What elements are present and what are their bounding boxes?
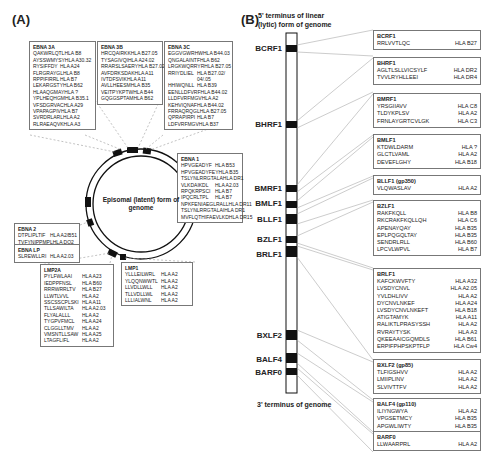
epitope-row: LPCVLWPVLHLA B7 xyxy=(377,246,477,253)
epitope-rows: ILIYNGWYAHLA A2VPGSETMCYHLA B35APGWLIWTY… xyxy=(377,408,477,430)
epitope-box-bllf1: BLLF1 (gp350) VLQWASLAVHLA A2 xyxy=(373,175,481,195)
hla-restriction: HLA A2.03 xyxy=(50,253,76,259)
epitope-sequence: APENAYQAY xyxy=(377,225,411,232)
panel-b-label: (B) xyxy=(241,12,259,27)
hla-restriction: HLA B18 xyxy=(455,307,477,314)
epitope-row: EPLPQGQLTAYHLA B35 xyxy=(377,232,477,239)
epitope-row: LVSDYCNVLHLA A2.05 xyxy=(377,285,477,292)
hla-restriction: HLA A2 xyxy=(458,293,477,300)
hla-restriction: HLA A2 xyxy=(458,384,477,391)
gene-label-bmlf1: BMLF1 xyxy=(242,199,282,208)
epitope-sequence: QKEEAAICGQMDLS xyxy=(377,336,430,343)
gene-label-bmrf1: BMRF1 xyxy=(242,184,282,193)
epitope-row: QKEEAAICGQMDLSHLA B61 xyxy=(377,336,477,343)
hla-restriction: HLA A11 xyxy=(456,314,477,321)
epitope-row: GLCTLVAMLHLA A2 xyxy=(377,151,477,158)
epitope-row: KTDWLDARMHLA ? xyxy=(377,144,477,151)
hla-restriction: HLA A2 xyxy=(458,441,477,448)
epitope-row: ERPIFPHPSKPTFLPHLA Cw4 xyxy=(377,343,477,350)
hla-restriction: HLA Cw4 xyxy=(454,343,477,350)
hla-restriction: HLA A3 xyxy=(458,329,477,336)
epitope-row: RLRAEAQVKHLA A3 xyxy=(33,121,92,127)
epitope-box-bmlf1: BMLF1 KTDWLDARMHLA ?GLCTLVAMLHLA A2DEVEF… xyxy=(373,134,481,169)
epitope-rows: RRLVVTLQCHLA B27 xyxy=(377,40,477,47)
hla-restriction: HLA ? xyxy=(462,144,477,151)
epitope-rows: YRSGIIAVVHLA C8TLDYKPLSVHLA A2FRNLAYGRTC… xyxy=(377,103,477,125)
epitope-sequence: DYCNVLNKEF xyxy=(377,300,415,307)
box-title: BMLF1 xyxy=(377,137,477,144)
hla-restriction: HLA B18 xyxy=(455,159,477,166)
hla-restriction: HLA B35 xyxy=(455,423,477,430)
hla-restriction: HLA B61 xyxy=(455,336,477,343)
epitope-rows: LLWAARPRLHLA A2 xyxy=(377,441,477,448)
epitope-rows: KAFCKWVFTYHLA A32LVSDYCNVLHLA A2.05YVLDH… xyxy=(377,278,477,350)
epitope-sequence: APGWLIWTY xyxy=(377,423,411,430)
epitope-sequence: YVLDHLIVV xyxy=(377,293,408,300)
epitope-sequence: RVRAYTYSK xyxy=(377,329,410,336)
epitope-rows: VLQWASLAVHLA A2 xyxy=(377,185,477,192)
box-title: BXLF2 (gp85) xyxy=(377,362,477,369)
gene-label-brlf1: BRLF1 xyxy=(242,250,282,259)
hla-restriction: HLA A2 xyxy=(161,297,189,303)
epitope-sequence: ATIGTAMYK xyxy=(377,314,409,321)
epitope-rows: EGGVGWRHWHLA B44.03QNGALAINTFHLA B62LRGK… xyxy=(168,50,229,127)
epitope-row: RRLVVTLQCHLA B27 xyxy=(377,40,477,47)
hla-restriction: HLA A2 xyxy=(458,185,477,192)
hla-restriction: HLA B60 xyxy=(455,239,477,246)
hla-restriction: HLA C3 xyxy=(458,118,477,125)
hla-restriction: HLA A3 xyxy=(64,121,92,127)
epitope-sequence: LVSDYCNVL xyxy=(377,285,410,292)
hla-restriction: HLA B27 xyxy=(455,40,477,47)
hla-restriction: HLA A2.05 xyxy=(451,285,477,292)
epitope-row: TLFIGSHVVHLA A2 xyxy=(377,369,477,376)
gene-label-barf0: BARF0 xyxy=(242,368,282,377)
epitope-row: SENDRLRLLHLA B60 xyxy=(377,239,477,246)
epitope-box-ebna1: EBNA 1 HPVGEADYFHLA B53HPVGEADYFEYHLA B3… xyxy=(177,153,243,223)
epitope-sequence: MVFLQTHIFAEVLKD xyxy=(181,214,229,220)
epitope-sequence: SENDRLRLL xyxy=(377,239,410,246)
epitope-row: VLQWASLAVHLA A2 xyxy=(377,185,477,192)
epitope-sequence: AGLTLSLLVICSYLF xyxy=(377,67,427,74)
epitope-box-brlf1: BRLF1 KAFCKWVFTYHLA A32LVSDYCNVLHLA A2.0… xyxy=(373,268,481,353)
hla-restriction: HLA B8 xyxy=(458,210,477,217)
epitope-box-bhrf1: BHRF1 AGLTLSLLVICSYLFHLA DR2TVVLRYHLLEEI… xyxy=(373,57,481,85)
epitope-row: LLLIALWNLHLA A2 xyxy=(125,297,189,303)
box-title: BARF0 xyxy=(377,434,477,441)
gene-label-balf4: BALF4 xyxy=(242,355,282,364)
bottom-caption: 3' terminus of genome xyxy=(257,400,331,409)
epitope-row: LTAGFLIFLHLA A2 xyxy=(44,337,110,343)
hla-restriction: HLA B7 xyxy=(458,246,477,253)
epitope-box-balf4: BALF4 (gp110) ILIYNGWYAHLA A2VPGSETMCYHL… xyxy=(373,398,481,433)
epitope-box-ebnalp: EBNA LP SLREWLLRIHLA A2.03 xyxy=(14,244,80,263)
epitope-row: RAKFKQLLHLA B8 xyxy=(377,210,477,217)
epitope-sequence: VLQWASLAV xyxy=(377,185,411,192)
epitope-row: ILIYNGWYAHLA A2 xyxy=(377,408,477,415)
epitope-box-bcrf1: BCRF1 RRLVVTLQCHLA B27 xyxy=(373,30,481,50)
box-title: BLLF1 (gp350) xyxy=(377,178,477,185)
epitope-box-ebna3c: EBNA 3C EGGVGWRHWHLA B44.03QNGALAINTFHLA… xyxy=(164,41,233,130)
epitope-sequence: KAFCKWVFTY xyxy=(377,278,415,285)
box-title: BCRF1 xyxy=(377,33,477,40)
hla-restriction: HLA A24 xyxy=(455,300,477,307)
epitope-sequence: LPCVLWPVL xyxy=(377,246,410,253)
top-caption-line1: 5' terminus of linear xyxy=(258,11,324,20)
epitope-row: KAFCKWVFTYHLA A32 xyxy=(377,278,477,285)
box-title: BALF4 (gp110) xyxy=(377,401,477,408)
gene-label-bxlf2: BXLF2 xyxy=(242,331,282,340)
hla-restriction: HLA A2 xyxy=(458,408,477,415)
hla-restriction: HLA A2 xyxy=(82,337,110,343)
epitope-box-lmp1: LMP1 YLLLEILWRLHLA A2YLQQNWWTLHLA A2LLVD… xyxy=(121,262,193,306)
epitope-box-bmrf1: BMRF1 YRSGIIAVVHLA C8TLDYKPLSVHLA A2FRNL… xyxy=(373,93,481,128)
hla-restriction: HLA DR4 xyxy=(454,74,477,81)
epitope-box-lmp2a: LMP2A PYLFWLAAIHLA A23IEDPPFNSLHLA B60RR… xyxy=(40,264,114,347)
hla-restriction: HLA A2 xyxy=(458,321,477,328)
epitope-sequence: TLDYKPLSV xyxy=(377,110,409,117)
epitope-row: RVRAYTYSKHLA A3 xyxy=(377,329,477,336)
epitope-row: VPGSETMCYHLA B35 xyxy=(377,415,477,422)
hla-restriction: HLA B35 xyxy=(455,232,477,239)
hla-restriction: HLA A2 xyxy=(458,376,477,383)
epitope-sequence: LMIIPLINV xyxy=(377,376,404,383)
epitope-row: APENAYQAYHLA B35 xyxy=(377,225,477,232)
epitope-row: LDFVRFMGVHLA B37 xyxy=(168,121,229,127)
gene-label-bhrf1: BHRF1 xyxy=(242,120,282,129)
